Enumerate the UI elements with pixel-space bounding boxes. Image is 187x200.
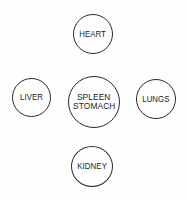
node-stomach-label: STOMACH (73, 102, 115, 111)
node-liver[interactable]: LIVER (12, 78, 51, 117)
node-kidney-label: KIDNEY (77, 162, 107, 171)
node-liver-label: LIVER (20, 93, 43, 102)
node-heart-label: HEART (80, 30, 107, 39)
node-heart[interactable]: HEART (73, 14, 113, 54)
organ-diagram: HEART LIVER SPLEEN STOMACH LUNGS KIDNEY (0, 0, 187, 200)
node-lungs-label: LUNGS (142, 95, 169, 104)
node-spleen-stomach[interactable]: SPLEEN STOMACH (68, 76, 120, 128)
node-kidney[interactable]: KIDNEY (71, 146, 113, 187)
node-lungs[interactable]: LUNGS (136, 79, 176, 119)
